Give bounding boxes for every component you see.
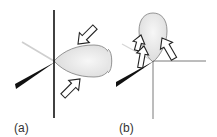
black-wedge-icon xyxy=(116,61,154,87)
faint-ray-line xyxy=(22,42,54,61)
partial-lobe-fragment xyxy=(108,49,112,73)
panel-a xyxy=(15,10,111,118)
radiation-lobe xyxy=(54,45,111,77)
black-wedge-icon xyxy=(15,62,55,89)
panel-label-b: (b) xyxy=(119,122,134,134)
arrow-up-right-icon xyxy=(58,74,85,101)
panel-label-a: (a) xyxy=(14,122,29,134)
figure-canvas xyxy=(0,0,217,137)
panel-b xyxy=(108,13,206,119)
